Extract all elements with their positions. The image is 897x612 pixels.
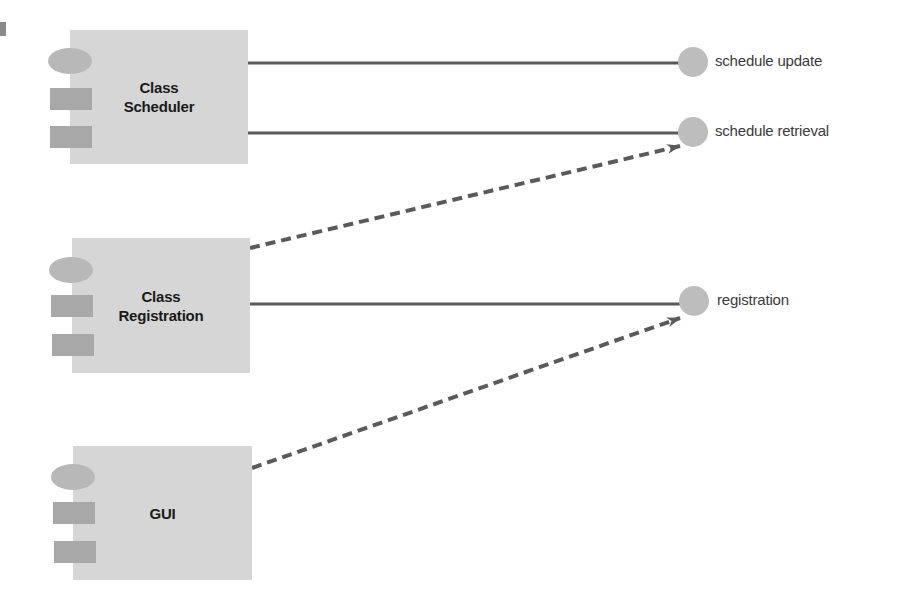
- component-label: Class Registration: [72, 287, 250, 325]
- component-label: Class Scheduler: [70, 78, 248, 116]
- component-port-rect-icon: [54, 541, 96, 563]
- interface-label-schedule-update: schedule update: [715, 52, 822, 69]
- interface-circle-schedule-update: [678, 47, 708, 77]
- interface-label-registration: registration: [717, 291, 789, 308]
- component-class-scheduler[interactable]: Class Scheduler: [70, 30, 248, 164]
- component-port-rect-icon: [50, 126, 92, 148]
- dependency-gui-to-registration: [252, 318, 680, 468]
- dependency-registration-to-schedule-retrieval: [250, 146, 680, 248]
- interface-circle-registration: [679, 286, 709, 316]
- component-label: GUI: [73, 504, 252, 523]
- component-port-rect-icon: [50, 88, 92, 110]
- component-port-oval-icon: [51, 464, 95, 490]
- component-port-rect-icon: [52, 334, 94, 356]
- component-class-registration[interactable]: Class Registration: [72, 238, 250, 373]
- component-port-rect-icon: [53, 502, 95, 524]
- component-gui[interactable]: GUI: [73, 446, 252, 580]
- interface-label-schedule-retrieval: schedule retrieval: [715, 122, 829, 139]
- interface-circle-schedule-retrieval: [678, 117, 708, 147]
- component-port-oval-icon: [49, 257, 93, 283]
- component-port-oval-icon: [48, 48, 92, 74]
- component-port-rect-icon: [51, 295, 93, 317]
